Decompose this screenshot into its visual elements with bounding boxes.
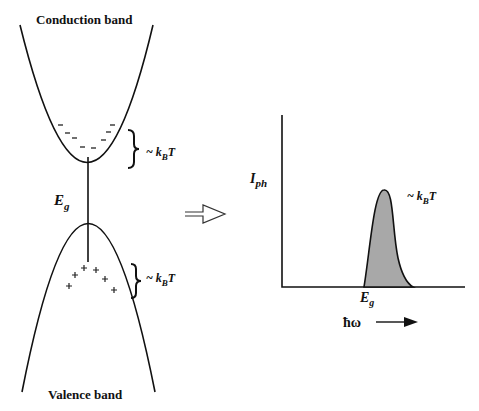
implies-arrow-icon: [185, 205, 225, 223]
y-axis-label: Iph: [249, 171, 267, 189]
valence-band-label: Valence band: [48, 387, 123, 402]
x-axis-label: ħω: [343, 315, 361, 330]
gap-label: Eg: [53, 192, 70, 212]
conduction-band-label: Conduction band: [36, 12, 133, 27]
electrons: [58, 125, 115, 148]
holes: [66, 265, 117, 293]
brace-valence: [131, 264, 141, 298]
kt-label-conduction: ~ kBT: [146, 145, 176, 162]
photocurrent-peak: [364, 190, 413, 287]
x-axis-arrow-icon: [376, 317, 418, 327]
figure: Conduction band Valence band Eg ~ kBT ~ …: [0, 0, 479, 411]
eg-tick-label: Eg: [359, 290, 374, 308]
kt-label-valence: ~ kBT: [146, 271, 176, 288]
peak-width-label: ~ kBT: [407, 189, 437, 206]
brace-conduction: [128, 130, 139, 168]
